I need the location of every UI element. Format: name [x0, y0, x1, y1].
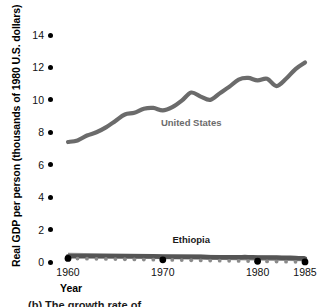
x-axis-major-dot [254, 258, 261, 265]
x-axis-minor-dot [142, 258, 146, 262]
x-axis-minor-dot [284, 260, 288, 264]
x-axis-minor-dot [151, 258, 155, 262]
x-axis-minor-dot [294, 260, 298, 264]
x-axis-minor-dot [265, 259, 269, 263]
x-axis-minor-dot [132, 257, 136, 261]
x-axis-minor-dot [85, 257, 89, 261]
plot-area [0, 0, 322, 307]
series-lines [68, 63, 305, 259]
x-axis-minor-dot [104, 257, 108, 261]
x-axis-major-dot [159, 256, 166, 263]
x-axis-minor-dot [218, 259, 222, 263]
x-axis-minor-dot [189, 258, 193, 262]
x-axis-minor-dot [199, 258, 203, 262]
x-axis-minor-dot [275, 260, 279, 264]
x-axis-minor-dot [227, 259, 231, 263]
chart-figure: Real GDP per person (thousands of 1980 U… [0, 0, 322, 307]
series-label-united-states: United States [161, 118, 222, 128]
figure-caption: (b) The growth rate of … … [28, 299, 318, 307]
x-axis-minor-dot [246, 259, 250, 263]
series-line-united-states [68, 63, 305, 142]
series-label-ethiopia: Ethiopia [172, 235, 209, 245]
x-axis-minor-dot [123, 257, 127, 261]
x-axis-minor-dot [114, 257, 118, 261]
x-axis-major-dot [65, 255, 72, 262]
x-axis-minor-dot [208, 259, 212, 263]
x-axis-minor-dot [170, 258, 174, 262]
x-axis-minor-dot [237, 259, 241, 263]
x-axis-minor-dot [180, 258, 184, 262]
x-axis-minor-dot [95, 257, 99, 261]
x-axis-title: Year [60, 283, 82, 294]
series-line-ethiopia [68, 256, 305, 258]
x-axis-major-dot [302, 259, 309, 266]
x-axis-minor-dot [76, 257, 80, 261]
